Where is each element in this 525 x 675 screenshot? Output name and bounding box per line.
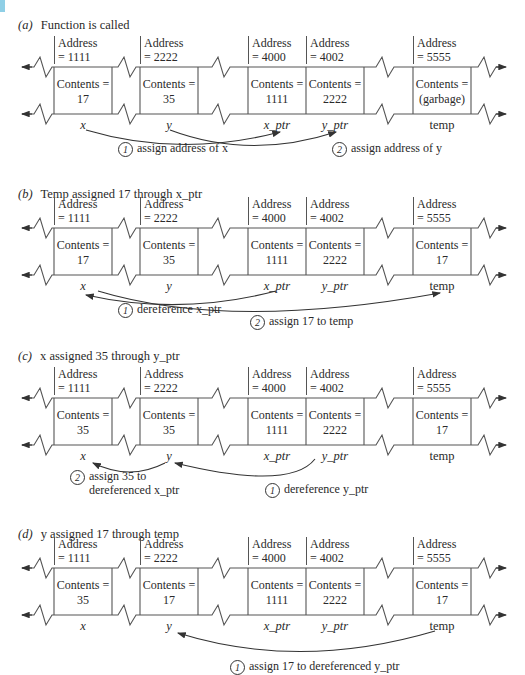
memory-cell-x: Contents =17	[54, 228, 112, 275]
variable-name: y	[140, 449, 198, 464]
contents-value: 1111	[248, 92, 306, 107]
contents-label: Contents =	[413, 408, 471, 423]
variable-name: y_ptr	[306, 118, 364, 133]
contents-label: Contents =	[248, 578, 306, 593]
contents-value: 2222	[306, 593, 364, 608]
contents-label: Contents =	[413, 77, 471, 92]
memory-cell-temp: Contents =(garbage)	[413, 67, 471, 114]
contents-value: 17	[140, 593, 198, 608]
panel-letter: (c)	[18, 349, 32, 363]
step-annotation: 2assign 35 to dereferenced x_ptr	[70, 469, 179, 497]
variable-name: temp	[413, 449, 471, 464]
memory-cell-y-ptr: Contents =2222	[306, 398, 364, 445]
address-label: Address = 2222	[140, 537, 183, 565]
step-number-icon: 1	[230, 660, 245, 675]
contents-value: 35	[140, 423, 198, 438]
memory-cell-x: Contents =17	[54, 67, 112, 114]
memory-cell-y: Contents =35	[140, 398, 198, 445]
address-label: Address = 5555	[413, 537, 456, 565]
step-number-icon: 1	[265, 483, 280, 498]
address-label: Address = 5555	[413, 36, 456, 64]
step-annotation: 2assign address of y	[332, 141, 442, 157]
step-text: assign 17 to dereferenced y_ptr	[249, 659, 400, 673]
variable-name: y_ptr	[306, 279, 364, 294]
contents-label: Contents =	[413, 238, 471, 253]
contents-value: 2222	[306, 92, 364, 107]
memory-cell-y: Contents =35	[140, 228, 198, 275]
address-label: Address = 5555	[413, 197, 456, 225]
step-annotation: 1dereference y_ptr	[265, 482, 368, 498]
step-number-icon: 1	[118, 303, 133, 318]
contents-value: 35	[54, 423, 112, 438]
contents-label: Contents =	[54, 578, 112, 593]
address-label: Address = 1111	[54, 36, 97, 64]
variable-name: temp	[413, 279, 471, 294]
address-label: Address = 4000	[248, 36, 291, 64]
contents-label: Contents =	[140, 238, 198, 253]
address-label: Address = 4002	[306, 197, 349, 225]
step-annotation: 2assign 17 to temp	[250, 314, 353, 330]
address-label: Address = 5555	[413, 367, 456, 395]
contents-value: 1111	[248, 423, 306, 438]
memory-cell-y-ptr: Contents =2222	[306, 67, 364, 114]
contents-label: Contents =	[54, 238, 112, 253]
panel-title-text: x assigned 35 through y_ptr	[37, 349, 180, 363]
memory-cell-x-ptr: Contents =1111	[248, 568, 306, 615]
address-label: Address = 2222	[140, 367, 183, 395]
address-label: Address = 4002	[306, 367, 349, 395]
memory-cell-y: Contents =35	[140, 67, 198, 114]
variable-name: temp	[413, 118, 471, 133]
variable-name: y_ptr	[306, 619, 364, 634]
panel-letter: (a)	[18, 18, 33, 32]
panel-letter: (b)	[18, 187, 33, 201]
variable-name: x	[54, 449, 112, 464]
contents-value: 17	[413, 423, 471, 438]
address-label: Address = 2222	[140, 197, 183, 225]
contents-label: Contents =	[140, 77, 198, 92]
memory-cell-y: Contents =17	[140, 568, 198, 615]
variable-name: y	[140, 279, 198, 294]
contents-label: Contents =	[248, 238, 306, 253]
variable-name: x_ptr	[248, 619, 306, 634]
contents-value: 35	[140, 253, 198, 268]
contents-label: Contents =	[306, 578, 364, 593]
step-text: assign 35 to dereferenced x_ptr	[89, 469, 179, 497]
memory-cell-x: Contents =35	[54, 398, 112, 445]
contents-value: 17	[54, 92, 112, 107]
address-label: Address = 1111	[54, 537, 97, 565]
variable-name: x	[54, 118, 112, 133]
panel-letter: (d)	[18, 527, 33, 541]
memory-cell-temp: Contents =17	[413, 228, 471, 275]
contents-value: 17	[54, 253, 112, 268]
step-text: assign address of x	[137, 141, 228, 155]
step-text: assign address of y	[351, 141, 442, 155]
contents-value: 17	[413, 593, 471, 608]
contents-value: 17	[413, 253, 471, 268]
contents-value: 35	[140, 92, 198, 107]
contents-label: Contents =	[306, 238, 364, 253]
step-number-icon: 2	[250, 315, 265, 330]
memory-cell-y-ptr: Contents =2222	[306, 228, 364, 275]
address-label: Address = 4002	[306, 537, 349, 565]
step-number-icon: 2	[70, 470, 85, 485]
contents-label: Contents =	[54, 77, 112, 92]
contents-label: Contents =	[306, 77, 364, 92]
step-text: assign 17 to temp	[269, 314, 353, 328]
contents-label: Contents =	[54, 408, 112, 423]
contents-value: (garbage)	[413, 92, 471, 107]
step-text: dereference y_ptr	[284, 482, 368, 496]
variable-name: x	[54, 619, 112, 634]
step-annotation: 1assign 17 to dereferenced y_ptr	[230, 659, 400, 675]
variable-name: temp	[413, 619, 471, 634]
memory-cell-x: Contents =35	[54, 568, 112, 615]
contents-value: 2222	[306, 253, 364, 268]
step-annotation: 1assign address of x	[118, 141, 228, 157]
memory-cell-y-ptr: Contents =2222	[306, 568, 364, 615]
variable-name: x	[54, 279, 112, 294]
variable-name: y	[140, 118, 198, 133]
address-label: Address = 4000	[248, 537, 291, 565]
step-text: dereference x_ptr	[137, 302, 221, 316]
variable-name: y	[140, 619, 198, 634]
contents-value: 35	[54, 593, 112, 608]
contents-label: Contents =	[306, 408, 364, 423]
